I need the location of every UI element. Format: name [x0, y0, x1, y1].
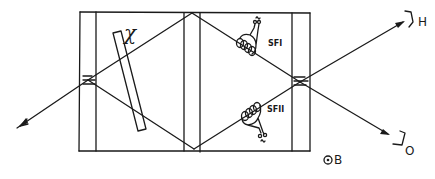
outgoing-beam-o: [300, 82, 390, 135]
interferometer-diagram: [0, 0, 435, 179]
incident-beam: [17, 80, 88, 128]
detector-h-label: H: [418, 16, 427, 28]
detector-h-bracket: [405, 11, 413, 27]
mirror-center: [184, 13, 200, 152]
outgoing-beam-h: [300, 21, 405, 82]
magnetic-field-icon: [324, 156, 332, 164]
spin-flipper-2-label: SFII: [267, 106, 284, 114]
magnetic-field-label: B: [334, 154, 342, 166]
spin-flipper-1-coil: [237, 17, 261, 56]
beam-paths: [88, 13, 300, 149]
detector-o-label: O: [405, 145, 414, 157]
spin-flipper-2-coil: [242, 103, 267, 143]
phase-shifter-label: χ: [124, 23, 136, 43]
detector-o-bracket: [393, 131, 405, 145]
spin-flipper-1-label: SFI: [268, 40, 282, 48]
